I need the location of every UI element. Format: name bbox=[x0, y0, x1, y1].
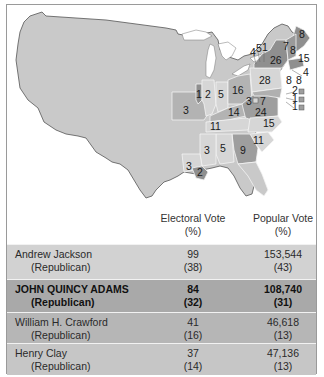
label-new-york: 26 bbox=[270, 54, 282, 66]
electoral-percent: (38) bbox=[155, 261, 231, 274]
table-row-jackson: Andrew Jackson (Republican) 99 (38) 153,… bbox=[7, 244, 316, 279]
label-new-york-clay: 4 bbox=[250, 46, 256, 58]
label-missouri: 3 bbox=[183, 104, 189, 116]
popular-percent: (13) bbox=[247, 329, 319, 342]
popular-votes: 47,136 bbox=[247, 347, 319, 360]
label-alabama: 5 bbox=[220, 142, 226, 154]
electoral-percent: (32) bbox=[155, 296, 231, 309]
label-new-york-jackson: 1 bbox=[262, 41, 268, 53]
label-ohio: 16 bbox=[232, 84, 244, 96]
legend-box-md-adams bbox=[253, 98, 258, 103]
candidate-party: (Republican) bbox=[31, 296, 95, 309]
results-table: Electoral Vote (%) Popular Vote (%) Andr… bbox=[7, 205, 316, 375]
header-popular-label: Popular Vote bbox=[247, 212, 319, 225]
electoral-percent: (16) bbox=[155, 329, 231, 342]
label-illinois-adams: 1 bbox=[196, 88, 202, 100]
label-south-carolina: 11 bbox=[253, 134, 264, 146]
electoral-votes: 84 bbox=[155, 283, 231, 296]
popular-votes: 153,544 bbox=[247, 248, 319, 261]
electoral-votes: 41 bbox=[155, 316, 231, 329]
popular-percent: (43) bbox=[247, 261, 319, 274]
legend-box-md-extra bbox=[299, 105, 304, 110]
label-maryland-adams: 3 bbox=[246, 95, 252, 107]
label-massachusetts: 15 bbox=[298, 52, 310, 64]
us-electoral-map: 8 8 7 15 4 8 26 5 4 1 8 28 2 1 3 7 1 24 … bbox=[6, 4, 317, 200]
electoral-votes: 99 bbox=[155, 248, 231, 261]
table-header: Electoral Vote (%) Popular Vote (%) bbox=[7, 205, 316, 244]
table-row-clay: Henry Clay (Republican) 37 (14) 47,136 (… bbox=[7, 343, 316, 375]
candidate-party: (Republican) bbox=[31, 329, 91, 342]
candidate-name: Andrew Jackson bbox=[15, 248, 92, 261]
label-vermont: 7 bbox=[283, 40, 289, 52]
legend-box-maryland bbox=[299, 97, 304, 102]
header-popular-vote: Popular Vote (%) bbox=[247, 212, 319, 238]
label-louisiana-jackson: 3 bbox=[186, 160, 192, 172]
legend-box-delaware bbox=[299, 89, 304, 94]
popular-percent: (13) bbox=[247, 360, 319, 373]
candidate-party: (Republican) bbox=[31, 261, 91, 274]
electoral-percent: (14) bbox=[155, 360, 231, 373]
lake-superior bbox=[182, 30, 212, 40]
header-electoral-label: Electoral Vote bbox=[155, 212, 231, 225]
candidate-name: Henry Clay bbox=[15, 347, 67, 360]
label-illinois-jackson: 2 bbox=[205, 88, 211, 100]
table-row-adams: JOHN QUINCY ADAMS (Republican) 84 (32) 1… bbox=[7, 279, 316, 312]
label-mississippi: 3 bbox=[204, 144, 210, 156]
label-tennessee: 11 bbox=[210, 120, 221, 132]
candidate-name: William H. Crawford bbox=[15, 316, 108, 329]
label-rhode-island: 4 bbox=[303, 66, 309, 78]
popular-votes: 46,618 bbox=[247, 316, 319, 329]
header-electoral-unit: (%) bbox=[155, 225, 231, 238]
popular-percent: (31) bbox=[247, 296, 319, 309]
candidate-party: (Republican) bbox=[31, 360, 91, 373]
label-maryland-crawford: 1 bbox=[292, 100, 298, 112]
label-north-carolina: 15 bbox=[263, 117, 275, 129]
label-new-hampshire: 8 bbox=[290, 44, 296, 56]
electoral-votes: 37 bbox=[155, 347, 231, 360]
table-row-crawford: William H. Crawford (Republican) 41 (16)… bbox=[7, 312, 316, 343]
candidate-name: JOHN QUINCY ADAMS bbox=[15, 283, 129, 296]
header-popular-unit: (%) bbox=[247, 225, 319, 238]
label-kentucky: 14 bbox=[228, 106, 240, 118]
header-electoral-vote: Electoral Vote (%) bbox=[155, 212, 231, 238]
label-georgia: 9 bbox=[240, 144, 246, 156]
label-maine: 8 bbox=[299, 28, 305, 40]
label-indiana: 5 bbox=[218, 88, 224, 100]
label-louisiana-adams: 2 bbox=[197, 166, 203, 178]
label-pennsylvania: 28 bbox=[259, 74, 271, 86]
popular-votes: 108,740 bbox=[247, 283, 319, 296]
